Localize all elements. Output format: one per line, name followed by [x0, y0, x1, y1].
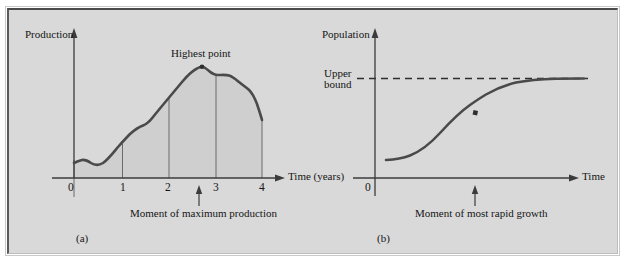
figure-container: Production Time (years) 0 1 2 3 4 Highes…	[0, 0, 625, 266]
panel-a-x-axis-label: Time (years)	[288, 171, 344, 182]
panel-b-origin-label: 0	[365, 182, 371, 193]
panel-a-annotation-caption: Moment of maximum production	[130, 208, 277, 219]
production-shaded-region	[74, 67, 262, 178]
panel-a-graphics	[52, 28, 285, 206]
inflection-point-marker	[473, 110, 478, 115]
panel-a-y-axis-label: Production	[25, 29, 73, 40]
panel-a-tick-label-0: 0	[68, 182, 74, 193]
panel-b-annotation-arrowhead	[472, 185, 478, 194]
panel-b-id: (b)	[377, 233, 390, 244]
panel-b-y-axis-label: Population	[322, 29, 370, 40]
upper-bound-label-line2: bound	[324, 79, 352, 90]
panel-b-y-axis-arrowhead	[372, 28, 379, 38]
population-curve	[386, 79, 584, 161]
panel-b-x-axis-label: Time	[582, 171, 605, 182]
panel-b-annotation-caption: Moment of most rapid growth	[415, 208, 548, 219]
panel-a-tick-label-2: 2	[165, 182, 171, 193]
panel-a-tick-label-4: 4	[259, 182, 265, 193]
panel-a-tick-label-3: 3	[213, 182, 219, 193]
panel-b-x-axis-arrowhead	[569, 175, 579, 182]
panel-a-annotation-arrowhead	[196, 185, 202, 194]
panel-a-tick-label-1: 1	[120, 182, 126, 193]
highest-point-label: Highest point	[171, 48, 231, 59]
panel-a-x-axis-arrowhead	[275, 175, 285, 182]
highest-point-marker	[200, 65, 205, 70]
figure-graphics	[0, 0, 625, 266]
panel-a-id: (a)	[76, 233, 88, 244]
panel-b-graphics	[353, 28, 588, 206]
